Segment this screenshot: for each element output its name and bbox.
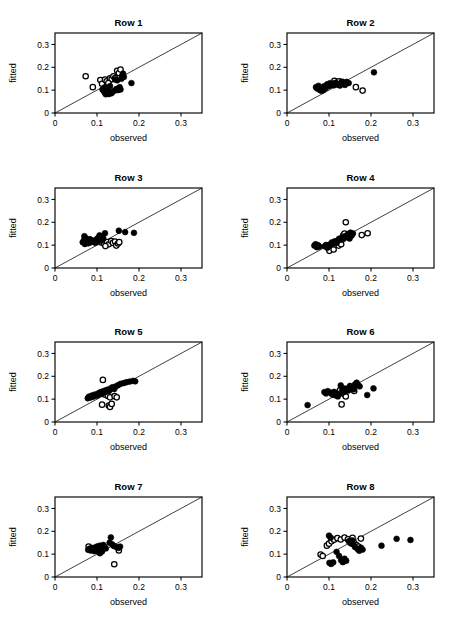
x-tick-label: 0.1	[323, 582, 335, 592]
data-point-open	[360, 88, 365, 93]
y-tick-label: 0.1	[269, 394, 281, 404]
data-point-open	[353, 84, 358, 89]
y-tick-label: 0.1	[37, 85, 49, 95]
identity-reference-line	[55, 497, 202, 577]
data-point-filled	[100, 235, 106, 241]
data-point-open	[103, 243, 108, 248]
y-tick-label: 0	[276, 572, 281, 582]
data-point-filled	[346, 80, 352, 86]
scatter-panel-5: Row 500.10.20.300.10.20.3observedfitted	[0, 309, 232, 464]
y-tick-label: 0.1	[37, 394, 49, 404]
y-tick-label: 0	[276, 108, 281, 118]
data-point-filled	[116, 227, 122, 233]
data-point-open	[343, 219, 348, 224]
x-tick-label: 0.2	[365, 427, 377, 437]
x-tick-label: 0.2	[365, 118, 377, 128]
data-point-filled	[328, 534, 334, 540]
identity-reference-line	[287, 188, 434, 268]
data-point-open	[359, 232, 364, 237]
data-point-filled	[408, 537, 414, 543]
data-point-filled	[360, 546, 366, 552]
data-point-filled	[346, 538, 352, 544]
data-point-open	[100, 377, 105, 382]
data-point-filled	[379, 542, 385, 548]
panel-title: Row 7	[115, 481, 143, 492]
figure-scatter-grid: Row 100.10.20.300.10.20.3observedfittedR…	[0, 0, 464, 618]
x-tick-label: 0	[285, 273, 290, 283]
y-tick-label: 0	[276, 263, 281, 273]
x-axis-label: observed	[110, 597, 147, 607]
scatter-panel-6: Row 600.10.20.300.10.20.3observedfitted	[232, 309, 464, 464]
panel-title: Row 1	[115, 17, 144, 28]
data-point-filled	[132, 378, 138, 384]
data-point-filled	[118, 87, 124, 93]
x-tick-label: 0	[53, 118, 58, 128]
x-tick-label: 0	[285, 427, 290, 437]
x-tick-label: 0.3	[175, 427, 187, 437]
y-axis-label: fitted	[240, 218, 250, 238]
y-tick-label: 0.2	[37, 217, 49, 227]
x-axis-label: observed	[342, 133, 379, 143]
data-point-filled	[108, 534, 114, 540]
x-tick-label: 0.3	[175, 582, 187, 592]
y-tick-label: 0	[44, 263, 49, 273]
y-tick-label: 0.3	[269, 349, 281, 359]
x-tick-label: 0.3	[407, 118, 419, 128]
panel-title: Row 8	[347, 481, 375, 492]
x-axis-label: observed	[110, 442, 147, 452]
y-axis-label: fitted	[8, 218, 18, 238]
scatter-panel-7: Row 700.10.20.300.10.20.3observedfitted	[0, 464, 232, 618]
y-tick-label: 0.2	[37, 62, 49, 72]
data-point-open	[358, 535, 363, 540]
data-point-open	[99, 402, 104, 407]
data-point-filled	[102, 230, 108, 236]
data-point-filled	[347, 235, 353, 241]
data-point-filled	[351, 386, 357, 392]
x-tick-label: 0.2	[133, 427, 145, 437]
data-point-open	[90, 84, 95, 89]
x-axis-label: observed	[110, 288, 147, 298]
y-tick-label: 0.1	[269, 240, 281, 250]
data-point-filled	[343, 557, 349, 563]
data-point-filled	[82, 233, 88, 239]
data-point-open	[109, 401, 114, 406]
data-point-open	[117, 239, 122, 244]
y-tick-label: 0.1	[269, 85, 281, 95]
x-axis-label: observed	[342, 597, 379, 607]
y-axis-label: fitted	[8, 372, 18, 392]
data-point-open	[339, 402, 344, 407]
x-tick-label: 0.3	[407, 427, 419, 437]
y-tick-label: 0.2	[269, 526, 281, 536]
x-tick-label: 0.2	[133, 118, 145, 128]
data-point-filled	[87, 236, 93, 242]
panel-title: Row 6	[347, 326, 375, 337]
data-point-filled	[107, 83, 113, 89]
y-tick-label: 0.3	[269, 194, 281, 204]
data-point-open	[365, 230, 370, 235]
y-tick-label: 0.2	[269, 371, 281, 381]
x-tick-label: 0.1	[323, 273, 335, 283]
data-point-open	[331, 246, 336, 251]
x-tick-label: 0.1	[91, 427, 103, 437]
x-tick-label: 0.1	[91, 582, 103, 592]
x-tick-label: 0.1	[91, 118, 103, 128]
x-tick-label: 0.2	[133, 273, 145, 283]
data-point-open	[320, 553, 325, 558]
x-tick-label: 0.3	[175, 118, 187, 128]
x-axis-label: observed	[342, 288, 379, 298]
y-axis-label: fitted	[240, 527, 250, 547]
data-point-filled	[357, 383, 363, 389]
y-tick-label: 0.3	[37, 349, 49, 359]
y-axis-label: fitted	[240, 63, 250, 83]
y-tick-label: 0	[44, 572, 49, 582]
y-tick-label: 0.2	[269, 62, 281, 72]
y-tick-label: 0.1	[37, 549, 49, 559]
x-axis-label: observed	[110, 133, 147, 143]
data-point-filled	[371, 386, 377, 392]
y-tick-label: 0.3	[37, 40, 49, 50]
data-point-filled	[103, 545, 109, 551]
x-tick-label: 0	[53, 427, 58, 437]
x-tick-label: 0	[53, 273, 58, 283]
y-tick-label: 0	[276, 417, 281, 427]
data-point-filled	[350, 230, 356, 236]
